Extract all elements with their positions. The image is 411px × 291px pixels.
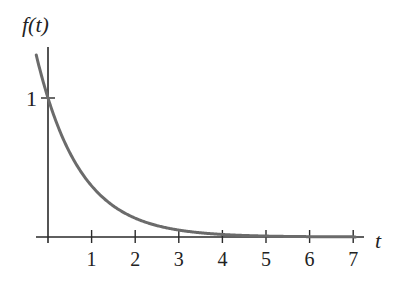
y-tick-label-1: 1 (26, 86, 37, 111)
y-axis-label: f(t) (22, 12, 49, 37)
x-tick-label: 3 (174, 248, 184, 270)
x-tick-label: 5 (261, 248, 271, 270)
x-tick-label: 4 (217, 248, 227, 270)
x-tick-label: 6 (305, 248, 315, 270)
chart: 1234567 f(t) t 1 (0, 0, 411, 291)
x-axis-label: t (375, 228, 382, 253)
x-tick-label: 1 (87, 248, 97, 270)
x-tick-label: 2 (130, 248, 140, 270)
decay-curve (36, 55, 355, 237)
curve-layer (36, 55, 355, 237)
labels: f(t) t 1 (22, 12, 382, 253)
x-tick-label: 7 (348, 248, 358, 270)
